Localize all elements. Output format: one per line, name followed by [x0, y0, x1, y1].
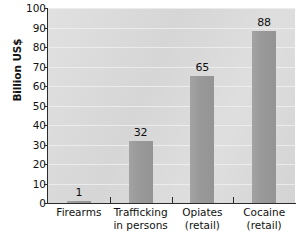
- x-tick-mark: [233, 197, 234, 203]
- y-tick-label: 60: [10, 81, 46, 91]
- y-tick-label: 90: [10, 23, 46, 33]
- x-category-label-line2: (retail): [224, 219, 304, 232]
- x-category-label-line1: Cocaine: [224, 206, 304, 219]
- x-axis-right-cap: [291, 203, 296, 204]
- plot-area: [48, 8, 295, 203]
- x-tick-mark: [110, 197, 111, 203]
- y-tick-label: 10: [10, 179, 46, 189]
- bar-value-label: 32: [121, 127, 161, 138]
- bar: [252, 31, 276, 203]
- bar-value-label: 1: [59, 187, 99, 198]
- x-axis-labels: FirearmsTraffickingin personsOpiates(ret…: [48, 206, 295, 244]
- bar-value-label: 65: [182, 62, 222, 73]
- x-tick-mark: [172, 197, 173, 203]
- y-tick-label: 100: [10, 3, 46, 13]
- y-tick-label: 20: [10, 159, 46, 169]
- y-tick-label: 40: [10, 120, 46, 130]
- y-tick-label: 50: [10, 101, 46, 111]
- y-tick-label: 70: [10, 62, 46, 72]
- bar: [67, 201, 91, 203]
- x-category-label: Cocaine(retail): [224, 206, 304, 232]
- y-tick-label: 80: [10, 42, 46, 52]
- bar: [129, 141, 153, 203]
- bar-chart: Billion US$ 0102030405060708090100 13265…: [0, 0, 307, 244]
- x-axis-line: [47, 203, 296, 204]
- bar-value-label: 88: [244, 17, 284, 28]
- gridline: [48, 8, 295, 9]
- bar: [190, 76, 214, 203]
- y-tick-label: 30: [10, 140, 46, 150]
